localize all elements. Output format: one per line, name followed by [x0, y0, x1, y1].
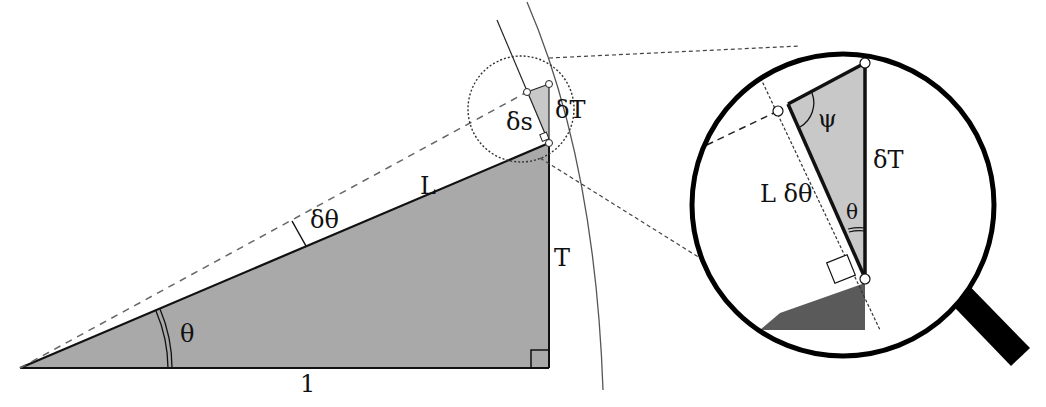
point-T-top	[546, 140, 553, 147]
magnifier-lens	[690, 54, 994, 356]
label-delta-T: δT	[555, 96, 585, 124]
label-theta: θ	[180, 320, 194, 348]
geometry-diagram: 1 T L θ δθ δs δT	[0, 0, 1046, 407]
delta-theta-tick	[292, 221, 306, 246]
label-delta-s: δs	[506, 108, 533, 136]
label-base: 1	[300, 370, 315, 398]
connector-top	[549, 46, 800, 58]
label-hypotenuse: L	[420, 172, 436, 200]
zoom-label-delta-T: δT	[873, 146, 903, 174]
point-delta-s	[524, 89, 531, 96]
zoom-label-theta: θ	[846, 200, 858, 224]
zoom-point-left	[773, 106, 783, 116]
zoom-label-psi: ψ	[818, 105, 837, 133]
zoom-label-L-delta-theta: L δθ	[760, 180, 812, 208]
label-height: T	[554, 244, 570, 272]
point-delta-T-top	[546, 81, 553, 88]
label-delta-theta: δθ	[310, 206, 339, 234]
zoom-point-bottom	[860, 274, 870, 284]
zoom-point-top	[860, 58, 870, 68]
